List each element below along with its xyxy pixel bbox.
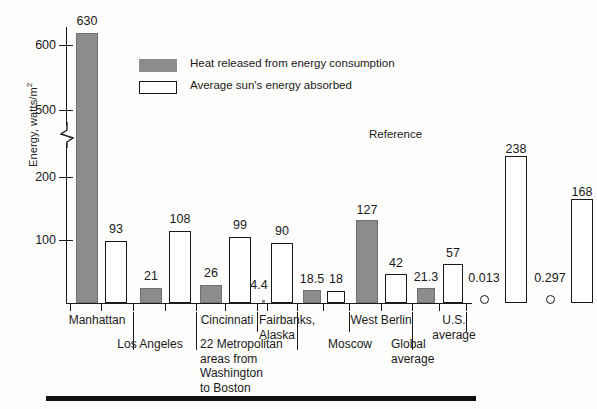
axis-sep-tick [267, 304, 268, 311]
bottom-rule [46, 396, 476, 401]
bar-value-metro-sun: 90 [263, 224, 301, 238]
axis-sep-tick [165, 304, 166, 311]
bar-value-us-heat: 0.297 [529, 271, 571, 285]
axis-sep-tick [349, 304, 350, 311]
y-tick-200 [59, 177, 73, 178]
legend-label-heat: Heat released from energy consumption [190, 57, 395, 69]
bar-value-us-sun: 168 [563, 185, 597, 199]
legend-swatch-open-icon [139, 81, 177, 94]
bar-cincinnati-sun [229, 237, 251, 303]
legend-swatch-filled-icon [139, 59, 177, 72]
bar-metro-heat [262, 300, 265, 303]
group-label-fairbanks: Fairbanks, Alaska [259, 313, 321, 342]
bar-global-heat-zero-marker-icon [480, 295, 489, 304]
bar-moscow-sun [385, 274, 407, 303]
bar-value-los-angeles-sun: 108 [161, 212, 199, 226]
group-label-moscow: Moscow [318, 337, 382, 352]
bar-value-global-heat: 0.013 [463, 271, 505, 285]
axis-sep-tick [439, 304, 440, 311]
bar-moscow-heat [356, 220, 378, 303]
axis-sep-tick [323, 304, 324, 311]
bar-los-angeles-sun [169, 231, 191, 303]
annotation-reference: Reference [369, 128, 422, 140]
bar-value-moscow-heat: 127 [348, 203, 386, 217]
bar-value-cincinnati-sun: 99 [221, 218, 259, 232]
bar-value-los-angeles-heat: 21 [132, 269, 170, 283]
y-tick-label-500: 500 [35, 103, 56, 117]
group-label-west-berlin: West Berlin [348, 313, 414, 328]
bar-cincinnati-heat [200, 285, 222, 303]
axis-break-icon [58, 122, 78, 148]
bar-west-berlin-sun [443, 264, 463, 303]
bar-value-west-berlin-heat: 21.3 [406, 270, 446, 284]
y-tick-500 [59, 110, 73, 111]
axis-sep-tick [70, 304, 71, 311]
y-axis-title-superscript: 2 [25, 83, 34, 88]
group-label-los-angeles: Los Angeles [107, 337, 193, 352]
bar-manhattan-heat [76, 33, 98, 303]
axis-sep-tick [257, 304, 258, 311]
bar-us-sun [571, 199, 593, 303]
group-label-manhattan: Manhattan [62, 313, 132, 328]
bar-metro-sun [271, 243, 293, 303]
axis-sep-tick [466, 304, 467, 311]
bar-value-west-berlin-sun: 57 [435, 246, 471, 260]
bar-los-angeles-heat [140, 288, 162, 303]
axis-sep-tick [225, 304, 226, 311]
y-axis-line [66, 27, 67, 304]
y-tick-label-600: 600 [35, 38, 56, 52]
group-label-metro: 22 Metropolitan areas from Washington to… [200, 337, 310, 395]
bar-value-fairbanks-sun: 18 [320, 272, 352, 286]
bar-manhattan-sun [105, 241, 127, 303]
bar-west-berlin-heat [417, 288, 435, 303]
axis-sep-tick [381, 304, 382, 311]
axis-sep-tick [412, 304, 413, 311]
y-tick-600 [59, 45, 73, 46]
bar-us-heat-zero-marker-icon [546, 295, 555, 304]
bar-fairbanks-sun [327, 291, 345, 303]
axis-sep-tick [101, 304, 102, 311]
axis-sep-tick [133, 304, 134, 311]
group-label-us: U.S. average [424, 313, 484, 342]
axis-sep-tick [297, 304, 298, 311]
group-label-cincinnati: Cincinnati [196, 313, 258, 328]
y-tick-label-100: 100 [35, 233, 56, 247]
y-tick-label-200: 200 [35, 170, 56, 184]
y-axis-title-text: Energy, watts/m [27, 87, 39, 167]
bar-value-moscow-sun: 42 [377, 256, 415, 270]
bar-value-cincinnati-heat: 26 [192, 266, 230, 280]
axis-sep-tick [196, 304, 197, 311]
bar-fairbanks-heat [303, 290, 321, 303]
bar-value-manhattan-heat: 630 [68, 14, 106, 28]
bar-value-global-sun: 238 [497, 142, 535, 156]
y-tick-100 [59, 240, 73, 241]
bar-value-manhattan-sun: 93 [97, 222, 135, 236]
legend-label-sun: Average sun's energy absorbed [190, 79, 352, 91]
bar-global-sun [505, 156, 527, 303]
